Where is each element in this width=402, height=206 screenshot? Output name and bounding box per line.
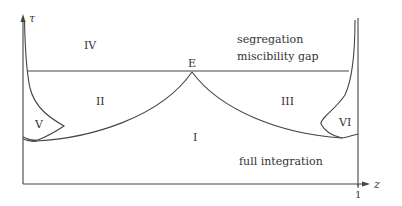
diagram-lines [0, 0, 402, 206]
right-solvus-curve [192, 72, 342, 138]
segregation-label: segregation [237, 34, 303, 45]
x-axis-label: z [374, 179, 380, 190]
region-i-label: I [193, 132, 197, 143]
region-ii-label: II [96, 96, 105, 107]
left-phase-curve [25, 20, 65, 140]
region-iv-label: IV [84, 40, 96, 51]
x-tick-label: 1 [355, 190, 361, 200]
miscibility-gap-label: miscibility gap [237, 51, 319, 62]
y-axis-label: τ [29, 13, 35, 24]
region-v-label: V [35, 119, 43, 130]
full-integration-label: full integration [239, 156, 323, 167]
region-vi-label: VI [339, 117, 351, 128]
region-iii-label: III [281, 96, 294, 107]
phase-diagram: τ z 1 E IV II III V VI I segregation mis… [0, 0, 402, 206]
left-solvus-curve [37, 72, 192, 141]
x-axis-arrow-icon [362, 182, 370, 187]
point-e-label: E [188, 58, 196, 69]
